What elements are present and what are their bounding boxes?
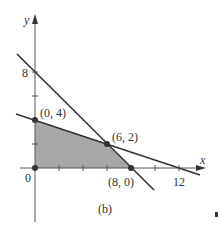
vertex-0-4 bbox=[32, 117, 38, 123]
y-axis-label: y bbox=[23, 13, 30, 27]
x-axis-label: x bbox=[199, 153, 206, 167]
vertex-6-2 bbox=[104, 141, 110, 147]
vertex-8-0 bbox=[128, 165, 134, 171]
point-label-6-2: (6, 2) bbox=[112, 130, 138, 144]
point-label-0-4: (0, 4) bbox=[40, 106, 66, 120]
y-tick-label-8: 8 bbox=[22, 66, 28, 80]
lp-graph: y x 8 12 0 (0, 4) (6, 2) (8, 0) (b) bbox=[0, 0, 220, 227]
end-mark-icon bbox=[215, 212, 218, 217]
y-axis-arrow-icon bbox=[32, 14, 38, 24]
x-tick-label-12: 12 bbox=[173, 175, 185, 189]
origin-label: 0 bbox=[25, 171, 31, 185]
point-label-8-0: (8, 0) bbox=[108, 175, 134, 189]
feasible-region bbox=[35, 120, 131, 168]
figure-caption: (b) bbox=[98, 202, 112, 216]
vertex-0-0 bbox=[32, 165, 38, 171]
